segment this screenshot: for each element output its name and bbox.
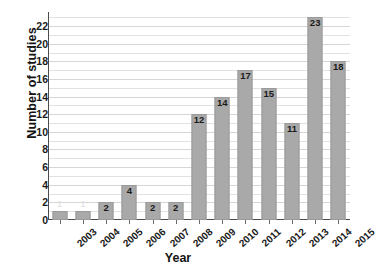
bar[interactable] xyxy=(284,123,299,220)
bar-value-label: 11 xyxy=(287,123,297,134)
x-axis-tick-mark xyxy=(315,220,316,224)
x-axis-title: Year xyxy=(0,251,356,265)
bar-slot: 18 xyxy=(327,12,350,220)
bar[interactable] xyxy=(238,70,253,220)
y-axis-tick-label: 0 xyxy=(14,214,48,226)
bar[interactable] xyxy=(308,17,323,220)
x-axis-tick-mark xyxy=(338,220,339,224)
bar-slot: 2 xyxy=(94,12,117,220)
bar-slot: 23 xyxy=(304,12,327,220)
x-axis-tick-label: 2015 xyxy=(353,226,377,249)
x-axis-tick-label: 2006 xyxy=(144,226,168,249)
x-axis-tick-mark xyxy=(83,220,84,224)
bar-value-label: 1 xyxy=(57,198,62,209)
x-axis-tick-label: 2014 xyxy=(330,226,354,249)
bar-value-label: 12 xyxy=(194,114,205,125)
x-axis-tick-label: 2005 xyxy=(121,226,145,249)
x-axis-tick-mark xyxy=(153,220,154,224)
bar-value-label: 2 xyxy=(150,202,155,213)
x-axis-tick-labels: 2003200420052006200720082009201020112012… xyxy=(48,220,350,252)
bar-value-label: 2 xyxy=(173,202,178,213)
y-axis-tick-label: 8 xyxy=(14,143,48,155)
y-axis-tick-label: 12 xyxy=(14,108,48,120)
bar-value-label: 2 xyxy=(103,202,108,213)
x-axis-tick-label: 2009 xyxy=(214,226,238,249)
x-axis-tick-label: 2010 xyxy=(237,226,261,249)
x-axis-tick-label: 2012 xyxy=(283,226,307,249)
x-axis-tick-mark xyxy=(60,220,61,224)
bar-value-label: 14 xyxy=(217,97,228,108)
y-axis-tick-label: 14 xyxy=(14,91,48,103)
bar[interactable] xyxy=(191,114,206,220)
bar-slot: 1 xyxy=(71,12,94,220)
y-axis-tick-label: 6 xyxy=(14,161,48,173)
x-axis-tick-label: 2008 xyxy=(190,226,214,249)
bars-layer: 11242212141715112318 xyxy=(48,12,350,220)
bar-value-label: 17 xyxy=(240,70,251,81)
x-axis-tick-mark xyxy=(269,220,270,224)
x-axis-tick-mark xyxy=(222,220,223,224)
x-axis-tick-label: 2003 xyxy=(74,226,98,249)
x-axis-tick-mark xyxy=(292,220,293,224)
bar-slot: 11 xyxy=(280,12,303,220)
x-axis-tick-label: 2007 xyxy=(167,226,191,249)
y-axis-tick-label: 22 xyxy=(14,20,48,32)
bar-slot: 1 xyxy=(48,12,71,220)
bar[interactable] xyxy=(261,88,276,220)
x-axis-tick-mark xyxy=(245,220,246,224)
bar-slot: 14 xyxy=(211,12,234,220)
bar-slot: 2 xyxy=(141,12,164,220)
y-axis-tick-label: 16 xyxy=(14,73,48,85)
bar[interactable] xyxy=(52,211,67,220)
bar-value-label: 1 xyxy=(80,198,85,209)
bar-slot: 15 xyxy=(257,12,280,220)
bar[interactable] xyxy=(75,211,90,220)
x-axis-tick-mark xyxy=(106,220,107,224)
bar[interactable] xyxy=(215,97,230,220)
bar-slot: 4 xyxy=(118,12,141,220)
bar[interactable] xyxy=(331,61,346,220)
y-axis-tick-label: 18 xyxy=(14,55,48,67)
x-axis-tick-label: 2011 xyxy=(260,226,283,249)
bar-value-label: 23 xyxy=(310,17,321,28)
y-axis-tick-label: 4 xyxy=(14,179,48,191)
y-axis-tick-label: 20 xyxy=(14,38,48,50)
x-axis-tick-mark xyxy=(176,220,177,224)
x-axis-tick-mark xyxy=(129,220,130,224)
bar-value-label: 4 xyxy=(127,185,132,196)
bar-slot: 2 xyxy=(164,12,187,220)
x-axis-tick-mark xyxy=(199,220,200,224)
bar-value-label: 18 xyxy=(333,61,344,72)
y-axis-tick-label: 10 xyxy=(14,126,48,138)
bar-value-label: 15 xyxy=(263,88,274,99)
x-axis-tick-label: 2004 xyxy=(98,226,122,249)
x-axis-tick-label: 2013 xyxy=(307,226,331,249)
bar-slot: 17 xyxy=(234,12,257,220)
y-axis-tick-label: 2 xyxy=(14,196,48,208)
bar-slot: 12 xyxy=(187,12,210,220)
